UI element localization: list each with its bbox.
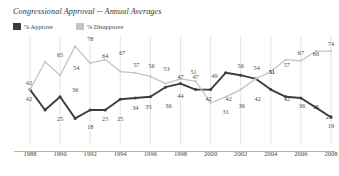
data-point-label: 25 (117, 115, 123, 122)
x-tick-label: 2008 (324, 150, 337, 157)
data-point-label: 42 (225, 94, 231, 101)
data-point-label: 42 (26, 78, 32, 85)
data-point-label: 67 (298, 48, 304, 55)
data-point-label: 36 (165, 101, 171, 108)
data-point-label: 66 (313, 49, 319, 56)
legend-label-disapprove: % Disapprove (87, 23, 123, 30)
data-point-label: 25 (102, 115, 108, 122)
data-point-label: 35 (145, 103, 151, 110)
data-point-label: 74 (328, 40, 334, 47)
data-point-label: 65 (57, 51, 63, 58)
chart-title: Congressional Approval -- Annual Average… (13, 7, 162, 16)
chart-container: Congressional Approval -- Annual Average… (0, 0, 339, 176)
data-point-label: 49 (211, 72, 217, 79)
data-point-label: 42 (255, 94, 261, 101)
data-point-label: 54 (254, 64, 260, 71)
data-point-label: 31 (222, 107, 228, 114)
data-point-label: 56 (238, 61, 244, 68)
x-axis-labels: 1988199019921994199619982000200220042006… (0, 150, 339, 164)
data-point-label: 42 (284, 94, 290, 101)
data-point-label: 51 (269, 67, 275, 74)
data-point-label: 36 (72, 85, 78, 92)
data-point-label: 18 (87, 123, 93, 130)
data-point-label: 54 (73, 64, 79, 71)
chart-svg (0, 34, 339, 144)
x-tick-label: 1996 (144, 150, 157, 157)
x-tick-label: 1998 (174, 150, 187, 157)
x-tick-label: 1994 (114, 150, 127, 157)
x-tick-label: 2006 (294, 150, 307, 157)
data-point-label: 25 (57, 115, 63, 122)
data-point-label: 42 (26, 94, 32, 101)
data-point-label: 36 (299, 101, 305, 108)
chart-legend: % Approve % Disapprove (13, 23, 123, 30)
data-point-label: 35 (313, 103, 319, 110)
plot-area (0, 34, 339, 144)
data-point-label: 27 (326, 112, 332, 119)
data-point-label: 57 (133, 60, 139, 67)
legend-label-approve: % Approve (24, 23, 53, 30)
data-point-label: 47 (177, 72, 183, 79)
data-point-label: 53 (163, 65, 169, 72)
x-tick-label: 2000 (204, 150, 217, 157)
data-point-label: 67 (119, 48, 125, 55)
x-tick-label: 1992 (84, 150, 97, 157)
data-point-label: 56 (148, 61, 154, 68)
x-tick-label: 1990 (54, 150, 67, 157)
data-point-label: 64 (102, 52, 108, 59)
x-tick-label: 1988 (23, 150, 36, 157)
data-point-label: 42 (205, 94, 211, 101)
disapprove-swatch-icon (76, 23, 84, 30)
approve-swatch-icon (13, 23, 21, 30)
data-point-label: 78 (87, 35, 93, 42)
data-point-label: 47 (192, 72, 198, 79)
legend-item-approve: % Approve (13, 23, 53, 30)
data-point-label: 19 (328, 122, 334, 129)
data-point-label: 34 (132, 104, 138, 111)
data-point-label: 44 (177, 92, 183, 99)
legend-item-disapprove: % Disapprove (76, 23, 123, 30)
x-tick-label: 2002 (234, 150, 247, 157)
data-point-label: 57 (284, 60, 290, 67)
x-tick-label: 2004 (264, 150, 277, 157)
data-point-label: 36 (239, 101, 245, 108)
